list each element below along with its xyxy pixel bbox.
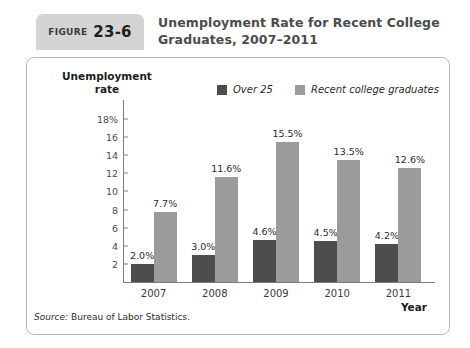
y-axis-tick-mark [123, 227, 128, 228]
bar-value-label: 12.6% [395, 154, 425, 165]
x-axis-title: Year [401, 301, 427, 313]
source-note: Source: Bureau of Labor Statistics. [34, 312, 190, 322]
x-axis-tick-label: 2007 [141, 288, 166, 299]
x-axis-tick-label: 2008 [202, 288, 227, 299]
bar[interactable] [192, 255, 215, 282]
figure-panel: Unemployment rate Over 25Recent college … [26, 57, 450, 335]
legend-label: Recent college graduates [311, 84, 439, 95]
bar[interactable] [215, 177, 238, 282]
legend-label: Over 25 [233, 84, 273, 95]
y-axis-tick-label: 4 [112, 240, 118, 251]
bar-group: 4.5%13.5%2010 [314, 160, 360, 282]
bar-value-label: 13.5% [334, 146, 364, 157]
bar-value-label: 4.2% [375, 230, 399, 241]
bar[interactable] [398, 168, 421, 282]
bar-value-label: 3.0% [191, 241, 215, 252]
y-axis-tick-label: 14 [106, 150, 118, 161]
plot-area: 24681012141618%2.0%7.7%20073.0%11.6%2008… [123, 110, 429, 282]
bar-value-label: 2.0% [130, 250, 154, 261]
bar-item[interactable]: 12.6% [398, 168, 421, 282]
y-axis-title: Unemployment rate [59, 70, 155, 95]
legend-swatch-icon [295, 85, 305, 95]
y-axis-tick-label: 6 [112, 222, 118, 233]
y-axis-tick-label: 12 [106, 168, 118, 179]
bar-value-label: 15.5% [272, 128, 302, 139]
chart-legend: Over 25Recent college graduates [217, 84, 439, 95]
bar-value-label: 7.7% [153, 198, 177, 209]
x-axis-tick-label: 2009 [263, 288, 288, 299]
bar-item[interactable]: 4.2% [375, 244, 398, 282]
source-text: Bureau of Labor Statistics. [71, 312, 190, 322]
source-label: Source: [34, 312, 68, 322]
y-axis-tick-mark [123, 155, 128, 156]
y-axis-tick-mark [123, 245, 128, 246]
bar-value-label: 11.6% [211, 163, 241, 174]
y-axis-tick-mark [123, 173, 128, 174]
y-axis-tick-label: 2 [112, 258, 118, 269]
bar-group: 4.2%12.6%2011 [375, 168, 421, 282]
bar-item[interactable]: 13.5% [337, 160, 360, 282]
bar[interactable] [314, 241, 337, 282]
figure-badge: FIGURE 23-6 [36, 14, 144, 50]
bar-item[interactable]: 4.6% [253, 240, 276, 282]
bar[interactable] [276, 142, 299, 282]
bar-item[interactable]: 2.0% [131, 264, 154, 282]
bar[interactable] [375, 244, 398, 282]
bar-group: 2.0%7.7%2007 [131, 212, 177, 282]
x-axis-line [123, 282, 435, 283]
bar-value-label: 4.5% [314, 227, 338, 238]
legend-swatch-icon [217, 85, 227, 95]
figure-badge-word: FIGURE [48, 27, 87, 37]
bar[interactable] [253, 240, 276, 282]
legend-item[interactable]: Recent college graduates [295, 84, 439, 95]
bar-item[interactable]: 3.0% [192, 255, 215, 282]
x-axis-tick-label: 2011 [386, 288, 411, 299]
y-axis-tick-mark [123, 209, 128, 210]
y-axis-tick-mark [123, 119, 128, 120]
y-axis-tick-mark [123, 263, 128, 264]
bar-value-label: 4.6% [252, 226, 276, 237]
y-axis-tick-label: 18% [97, 114, 118, 125]
y-axis-tick-label: 8 [112, 204, 118, 215]
bar[interactable] [337, 160, 360, 282]
bar[interactable] [131, 264, 154, 282]
y-axis-tick-mark [123, 191, 128, 192]
bar-item[interactable]: 4.5% [314, 241, 337, 282]
legend-item[interactable]: Over 25 [217, 84, 273, 95]
figure-badge-number: 23-6 [93, 23, 131, 41]
bar-group: 3.0%11.6%2008 [192, 177, 238, 282]
bar-group: 4.6%15.5%2009 [253, 142, 299, 282]
bar-item[interactable]: 11.6% [215, 177, 238, 282]
bar-item[interactable]: 15.5% [276, 142, 299, 282]
y-axis-tick-label: 16 [106, 132, 118, 143]
bar-item[interactable]: 7.7% [154, 212, 177, 282]
x-axis-tick-label: 2010 [324, 288, 349, 299]
figure-title: Unemployment Rate for Recent College Gra… [158, 15, 448, 48]
y-axis-tick-mark [123, 137, 128, 138]
y-axis-tick-label: 10 [106, 186, 118, 197]
bar[interactable] [154, 212, 177, 282]
